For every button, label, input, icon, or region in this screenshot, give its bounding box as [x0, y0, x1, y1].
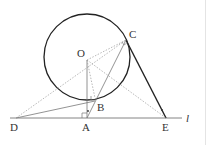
label-c: C — [129, 28, 136, 40]
segment-oc — [87, 40, 126, 60]
label-e: E — [162, 121, 169, 133]
right-angle-a — [82, 113, 87, 118]
segment-db — [16, 101, 95, 118]
right-border — [205, 0, 206, 145]
label-o: O — [77, 47, 85, 59]
label-d: D — [10, 121, 18, 133]
segment-ce — [126, 40, 166, 118]
label-b: B — [97, 101, 104, 113]
segment-ac — [87, 40, 126, 118]
figure-canvas: O C B D A E l — [0, 0, 208, 145]
label-line-l: l — [186, 112, 189, 124]
angle-mark-a — [87, 110, 89, 112]
geometry-figure: O C B D A E l — [0, 0, 208, 145]
segment-ob — [87, 60, 95, 98]
angle-mark-e — [161, 109, 163, 111]
label-a: A — [82, 121, 90, 133]
